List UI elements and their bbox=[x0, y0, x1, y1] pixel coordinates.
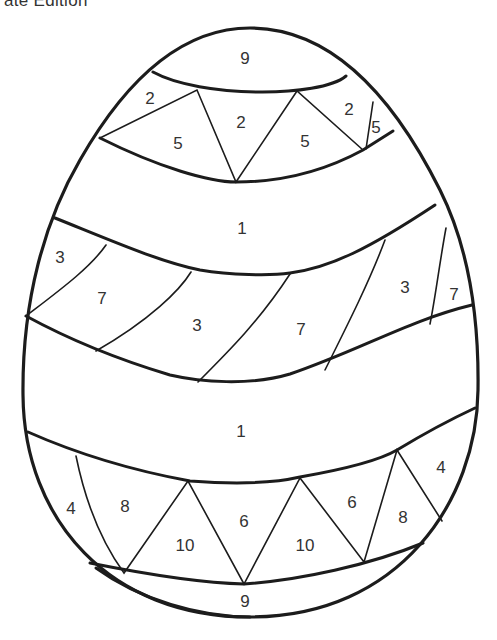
region-number: 5 bbox=[371, 118, 380, 137]
region-number: 1 bbox=[236, 422, 245, 441]
region-number: 2 bbox=[344, 100, 353, 119]
egg-outline bbox=[23, 28, 478, 617]
lower-band-divider bbox=[28, 408, 475, 483]
top-cap-divider bbox=[153, 72, 346, 92]
region-number: 7 bbox=[97, 289, 106, 308]
region-number: 7 bbox=[449, 285, 458, 304]
region-number: 2 bbox=[145, 89, 154, 108]
region-number: 10 bbox=[296, 536, 315, 555]
region-number: 4 bbox=[66, 499, 75, 518]
stripe-band-lower-divider bbox=[26, 305, 472, 382]
region-number: 5 bbox=[300, 132, 309, 151]
upper-band-divider bbox=[55, 205, 435, 275]
region-number: 4 bbox=[436, 458, 445, 477]
region-number: 9 bbox=[240, 49, 249, 68]
region-number: 3 bbox=[55, 248, 64, 267]
region-number: 6 bbox=[347, 493, 356, 512]
top-triangle-lines bbox=[100, 90, 373, 182]
region-number: 9 bbox=[240, 592, 249, 611]
region-number: 3 bbox=[192, 316, 201, 335]
region-number: 3 bbox=[400, 278, 409, 297]
region-number: 1 bbox=[237, 219, 246, 238]
egg-coloring-page: 9 2 5 2 5 2 5 1 3 7 3 7 3 7 1 4 8 10 6 1… bbox=[0, 0, 497, 640]
bottom-cap-curve bbox=[96, 568, 250, 617]
region-number: 10 bbox=[176, 536, 195, 555]
region-number: 8 bbox=[398, 508, 407, 527]
bottom-triangle-lines bbox=[76, 450, 442, 584]
region-number: 8 bbox=[120, 497, 129, 516]
stripe-lines bbox=[26, 228, 446, 382]
region-number: 5 bbox=[173, 134, 182, 153]
region-number: 6 bbox=[239, 512, 248, 531]
region-number: 7 bbox=[296, 320, 305, 339]
region-number: 2 bbox=[236, 113, 245, 132]
top-band-lower-divider bbox=[100, 131, 393, 182]
